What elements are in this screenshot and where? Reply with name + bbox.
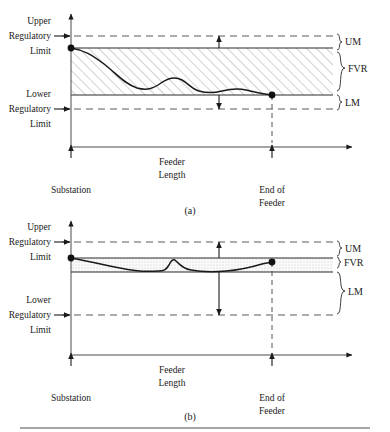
upper-margin-label-b: UM: [345, 243, 361, 254]
fvr-label-b: FVR: [344, 257, 364, 268]
end-of-feeder-label-a-line2: Feeder: [259, 198, 286, 208]
upper-margin-brace-b: [337, 241, 342, 256]
panel-a-caption: (a): [184, 205, 195, 217]
upper-margin-label-a: UM: [345, 36, 361, 47]
lower-regulatory-limit-label-b-line2: Regulatory: [9, 310, 51, 320]
upper-margin-brace-a: [337, 34, 342, 50]
figure-root: Upper Regulatory Limit Lower Regulatory …: [0, 0, 390, 432]
upper-regulatory-limit-label-a-line3: Limit: [30, 46, 51, 56]
fvr-band-b: [71, 258, 333, 272]
lower-margin-label-a: LM: [345, 97, 360, 108]
substation-label-a: Substation: [51, 185, 91, 195]
lower-margin-brace-a: [337, 95, 342, 110]
fvr-brace-a: [337, 52, 345, 91]
upper-regulatory-limit-label-a-line2: Regulatory: [9, 31, 51, 41]
end-of-feeder-label-a: End of: [259, 185, 285, 195]
feeder-length-label-a-line2: Length: [159, 170, 186, 180]
substation-node-b: [68, 255, 75, 262]
feeder-length-label-b: Feeder: [159, 365, 186, 375]
lower-regulatory-limit-label-b: Lower: [26, 295, 52, 305]
upper-regulatory-limit-label-b-line3: Limit: [30, 252, 51, 262]
end-of-feeder-label-b-line2: Feeder: [259, 406, 286, 416]
end-of-feeder-node-a: [269, 92, 276, 99]
substation-node-a: [68, 45, 75, 52]
panel-b-caption: (b): [184, 411, 196, 423]
lower-regulatory-limit-label-a: Lower: [26, 89, 52, 99]
lower-regulatory-limit-label-b-line3: Limit: [30, 325, 51, 335]
lower-margin-label-b: LM: [348, 286, 363, 297]
lower-regulatory-limit-label-a-line3: Limit: [30, 119, 51, 129]
panel-b: Upper Regulatory Limit Lower Regulatory …: [9, 221, 364, 423]
fvr-band-a: [71, 48, 333, 95]
upper-regulatory-limit-label-b-line2: Regulatory: [9, 237, 51, 247]
feeder-length-label-b-line2: Length: [159, 378, 186, 388]
fvr-brace-b: [337, 257, 341, 268]
feeder-length-label-a: Feeder: [159, 157, 186, 167]
panel-a: Upper Regulatory Limit Lower Regulatory …: [9, 14, 368, 217]
end-of-feeder-label-b: End of: [259, 393, 285, 403]
upper-regulatory-limit-label-a: Upper: [27, 16, 52, 26]
substation-label-b: Substation: [51, 393, 91, 403]
lower-regulatory-limit-label-a-line2: Regulatory: [9, 104, 51, 114]
fvr-label-a: FVR: [348, 63, 368, 74]
end-of-feeder-node-b: [269, 259, 276, 266]
feeder-voltage-regulation-figure: Upper Regulatory Limit Lower Regulatory …: [0, 0, 390, 432]
upper-regulatory-limit-label-b: Upper: [27, 222, 52, 232]
lower-margin-brace-b: [337, 272, 345, 314]
